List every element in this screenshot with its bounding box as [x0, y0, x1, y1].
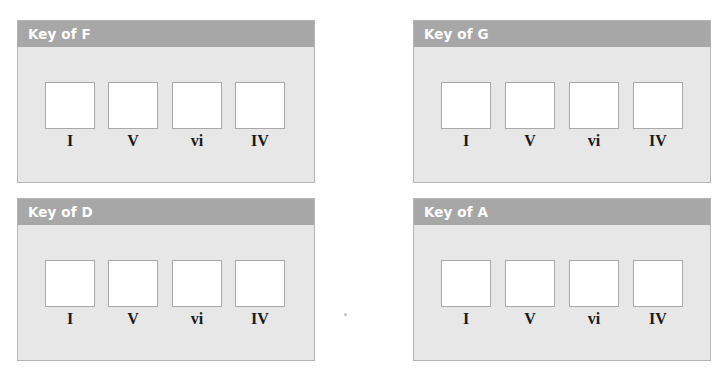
chord-label: V [108, 132, 158, 150]
panel-title: Key of F [18, 21, 314, 47]
chord-label: vi [172, 132, 222, 150]
chord-label: V [505, 310, 555, 328]
chord-slot-3[interactable] [569, 260, 619, 307]
chord-slot-3[interactable] [172, 82, 222, 129]
chord-slot-2[interactable] [505, 82, 555, 129]
chord-slot-2[interactable] [505, 260, 555, 307]
chord-slot-4[interactable] [235, 260, 285, 307]
key-panel-g: Key of G I V vi IV [413, 20, 711, 183]
chord-slot-1[interactable] [441, 82, 491, 129]
chord-label: I [45, 132, 95, 150]
chord-label: V [108, 310, 158, 328]
chord-slot-4[interactable] [633, 82, 683, 129]
scan-speck [343, 312, 347, 316]
chord-slot-4[interactable] [633, 260, 683, 307]
chord-slot-1[interactable] [45, 82, 95, 129]
chord-label: IV [633, 310, 683, 328]
key-panel-f: Key of F I V vi IV [17, 20, 315, 183]
chord-slot-3[interactable] [569, 82, 619, 129]
key-panel-d: Key of D I V vi IV [17, 198, 315, 361]
chord-label: V [505, 132, 555, 150]
key-panel-a: Key of A I V vi IV [413, 198, 711, 361]
chord-label: IV [235, 310, 285, 328]
chord-label: I [441, 310, 491, 328]
panel-title: Key of G [414, 21, 710, 47]
chord-slot-1[interactable] [441, 260, 491, 307]
chord-slot-2[interactable] [108, 82, 158, 129]
chord-slot-3[interactable] [172, 260, 222, 307]
panel-title: Key of A [414, 199, 710, 225]
panel-title: Key of D [18, 199, 314, 225]
chord-label: vi [569, 310, 619, 328]
chord-label: vi [172, 310, 222, 328]
chord-label: I [45, 310, 95, 328]
chord-label: IV [235, 132, 285, 150]
chord-slot-2[interactable] [108, 260, 158, 307]
chord-label: I [441, 132, 491, 150]
chord-slot-4[interactable] [235, 82, 285, 129]
chord-slot-1[interactable] [45, 260, 95, 307]
chord-label: IV [633, 132, 683, 150]
chord-label: vi [569, 132, 619, 150]
